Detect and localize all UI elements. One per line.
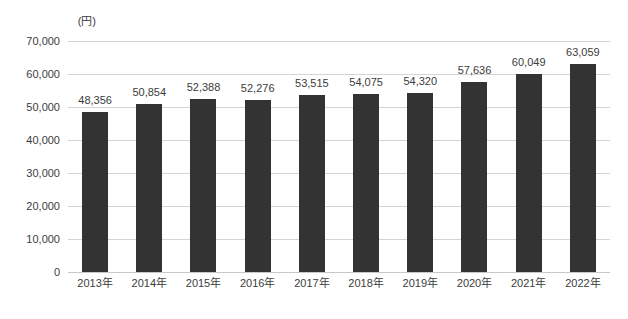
bar-value-label: 60,049 [512, 57, 546, 68]
bar[interactable] [407, 93, 433, 272]
y-axis-tick-label: 60,000 [2, 69, 60, 80]
gridline [68, 272, 610, 273]
bar-value-label: 54,075 [349, 77, 383, 88]
bar-chart: (円) 010,00020,00030,00040,00050,00060,00… [0, 0, 628, 319]
x-axis-tick-label: 2017年 [294, 278, 329, 289]
y-axis-tick-label: 30,000 [2, 168, 60, 179]
bar[interactable] [82, 112, 108, 272]
bar-value-label: 53,515 [295, 78, 329, 89]
bar-group: 52,276 [231, 41, 285, 272]
x-axis-tick-label: 2014年 [132, 278, 167, 289]
x-axis-tick-label: 2015年 [186, 278, 221, 289]
bars-layer: 48,35650,85452,38852,27653,51554,07554,3… [68, 41, 610, 272]
bar-value-label: 52,276 [241, 83, 275, 94]
bar-value-label: 50,854 [132, 87, 166, 98]
x-axis-tick-label: 2022年 [565, 278, 600, 289]
bar[interactable] [245, 100, 271, 273]
bar-group: 54,075 [339, 41, 393, 272]
bar[interactable] [299, 95, 325, 272]
bar-value-label: 57,636 [458, 65, 492, 76]
bar[interactable] [570, 64, 596, 272]
plot-area: 48,35650,85452,38852,27653,51554,07554,3… [68, 41, 610, 272]
bar[interactable] [136, 104, 162, 272]
x-axis-tick-label: 2020年 [457, 278, 492, 289]
bar[interactable] [190, 99, 216, 272]
y-axis-tick-label: 0 [2, 267, 60, 278]
bar[interactable] [516, 74, 542, 272]
x-axis-tick-label: 2018年 [348, 278, 383, 289]
bar-value-label: 48,356 [78, 95, 112, 106]
bar-group: 50,854 [122, 41, 176, 272]
bar-value-label: 54,320 [403, 76, 437, 87]
bar-group: 54,320 [393, 41, 447, 272]
bar-value-label: 63,059 [566, 47, 600, 58]
y-axis-tick-label: 70,000 [2, 36, 60, 47]
y-axis-unit-label: (円) [36, 12, 96, 28]
y-axis-tick-label: 10,000 [2, 234, 60, 245]
bar-group: 57,636 [447, 41, 501, 272]
bar[interactable] [353, 94, 379, 272]
y-axis-tick-label: 40,000 [2, 135, 60, 146]
x-axis-tick-label: 2013年 [77, 278, 112, 289]
bar-value-label: 52,388 [187, 82, 221, 93]
x-axis-category-labels: 2013年2014年2015年2016年2017年2018年2019年2020年… [68, 278, 610, 302]
bar[interactable] [461, 82, 487, 272]
y-axis-tick-label: 50,000 [2, 102, 60, 113]
x-axis-tick-label: 2021年 [511, 278, 546, 289]
bar-group: 60,049 [502, 41, 556, 272]
y-axis-tick-label: 20,000 [2, 201, 60, 212]
x-axis-tick-label: 2019年 [403, 278, 438, 289]
bar-group: 53,515 [285, 41, 339, 272]
bar-group: 63,059 [556, 41, 610, 272]
bar-group: 48,356 [68, 41, 122, 272]
bar-group: 52,388 [176, 41, 230, 272]
x-axis-tick-label: 2016年 [240, 278, 275, 289]
